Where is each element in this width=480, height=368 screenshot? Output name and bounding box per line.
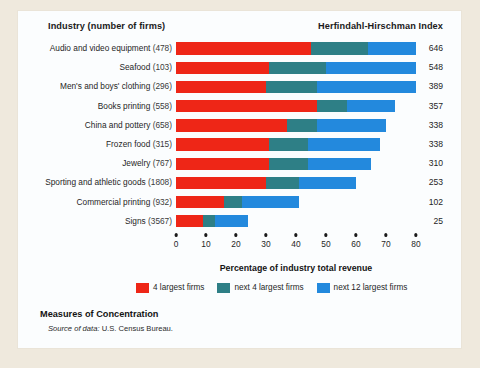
legend-item-3: next 12 largest firms: [317, 283, 408, 293]
firm-count: (658): [153, 120, 172, 130]
bar-segment-2: [317, 100, 347, 112]
bar-segment-1: [176, 215, 203, 227]
tick-marker-icon: [384, 233, 388, 237]
x-axis-tick-label: 30: [261, 240, 270, 249]
bar-segment-2: [224, 196, 242, 208]
x-axis-tick: 60: [351, 233, 360, 249]
firm-count: (932): [153, 197, 172, 207]
x-axis-tick: 0: [174, 233, 179, 249]
hhi-column-header: Herfindahl-Hirschman Index: [318, 21, 443, 31]
stacked-bar: [176, 62, 416, 74]
stacked-bar: [176, 100, 395, 112]
hhi-value: 389: [409, 77, 443, 96]
industry-name: Frozen food: [106, 139, 153, 149]
row-label: Audio and video equipment (478): [18, 39, 172, 58]
chart-row: Audio and video equipment (478)646: [18, 39, 461, 58]
chart-row: Men's and boys' clothing (296)389: [18, 77, 461, 96]
stacked-bar: [176, 177, 356, 189]
stacked-bar: [176, 196, 299, 208]
bar-segment-1: [176, 177, 266, 189]
bar-segment-2: [203, 215, 215, 227]
tick-marker-icon: [324, 233, 328, 237]
chart-legend: 4 largest firmsnext 4 largest firmsnext …: [136, 283, 420, 293]
row-label: Sporting and athletic goods (1808): [18, 173, 172, 192]
firm-count: (296): [153, 81, 172, 91]
x-axis-title: Percentage of industry total revenue: [176, 263, 416, 273]
legend-label: next 12 largest firms: [334, 283, 408, 292]
bar-segment-3: [347, 100, 395, 112]
bar-segment-3: [317, 81, 416, 93]
bar-segment-1: [176, 42, 311, 54]
row-label: Jewelry (767): [18, 154, 172, 173]
bar-segment-3: [326, 62, 416, 74]
chart-row: Commercial printing (932)102: [18, 193, 461, 212]
tick-marker-icon: [264, 233, 268, 237]
legend-item-2: next 4 largest firms: [217, 283, 303, 293]
firm-count: (1808): [148, 177, 172, 187]
stacked-bar: [176, 42, 416, 54]
legend-swatch-icon: [317, 283, 330, 293]
industry-name: Jewelry: [122, 158, 152, 168]
tick-marker-icon: [234, 233, 238, 237]
hhi-value: 253: [409, 173, 443, 192]
industry-name: Signs: [125, 216, 148, 226]
bar-segment-3: [299, 177, 356, 189]
legend-item-1: 4 largest firms: [136, 283, 204, 293]
x-axis-tick: 30: [261, 233, 270, 249]
x-axis-tick-label: 0: [174, 240, 179, 249]
industry-name: Commercial printing: [77, 197, 153, 207]
tick-marker-icon: [294, 233, 298, 237]
x-axis-tick: 20: [231, 233, 240, 249]
row-label: Men's and boys' clothing (296): [18, 77, 172, 96]
hhi-value: 102: [409, 193, 443, 212]
industry-name: Men's and boys' clothing: [60, 81, 153, 91]
row-label: Commercial printing (932): [18, 193, 172, 212]
source-label: Source of data:: [48, 324, 100, 333]
firm-count: (478): [153, 43, 172, 53]
tick-marker-icon: [354, 233, 358, 237]
x-axis-tick-label: 80: [411, 240, 420, 249]
stacked-bar: [176, 138, 380, 150]
source-value: U.S. Census Bureau.: [100, 324, 173, 333]
x-axis-tick-label: 10: [201, 240, 210, 249]
chart-row: Jewelry (767)310: [18, 154, 461, 173]
chart-row: Seafood (103)548: [18, 58, 461, 77]
chart-row: Signs (3567)25: [18, 212, 461, 231]
bar-segment-3: [215, 215, 248, 227]
row-label: Frozen food (315): [18, 135, 172, 154]
firm-count: (3567): [148, 216, 172, 226]
bar-segment-3: [308, 138, 380, 150]
x-axis-tick-label: 40: [291, 240, 300, 249]
bar-segment-2: [269, 158, 308, 170]
bar-segment-1: [176, 158, 269, 170]
firm-count: (315): [153, 139, 172, 149]
stacked-bar: [176, 158, 371, 170]
firm-count: (767): [153, 158, 172, 168]
industry-name: Audio and video equipment: [50, 43, 153, 53]
hhi-value: 357: [409, 97, 443, 116]
chart-row: Frozen food (315)338: [18, 135, 461, 154]
hhi-value: 548: [409, 58, 443, 77]
hhi-value: 646: [409, 39, 443, 58]
bar-segment-1: [176, 119, 287, 131]
stacked-bar-chart: Audio and video equipment (478)646Seafoo…: [18, 39, 461, 231]
industry-name: Seafood: [119, 62, 152, 72]
firm-count: (103): [153, 62, 172, 72]
x-axis-tick: 70: [381, 233, 390, 249]
tick-marker-icon: [204, 233, 208, 237]
caption-title: Measures of Concentration: [40, 309, 158, 319]
bar-segment-2: [269, 62, 326, 74]
industry-name: Sporting and athletic goods: [45, 177, 148, 187]
bar-segment-1: [176, 100, 317, 112]
stacked-bar: [176, 215, 248, 227]
firm-count: (558): [153, 101, 172, 111]
tick-marker-icon: [174, 233, 178, 237]
bar-segment-1: [176, 62, 269, 74]
chart-row: Sporting and athletic goods (1808)253: [18, 173, 461, 192]
bar-segment-2: [311, 42, 368, 54]
hhi-value: 338: [409, 135, 443, 154]
x-axis-tick: 10: [201, 233, 210, 249]
bar-segment-2: [269, 138, 308, 150]
stacked-bar: [176, 81, 416, 93]
bar-segment-1: [176, 81, 266, 93]
